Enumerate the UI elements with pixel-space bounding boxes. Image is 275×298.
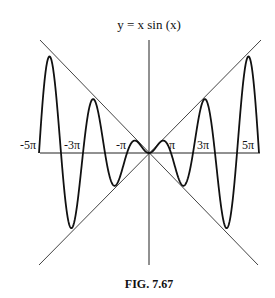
figure-caption: FIG. 7.67 (125, 277, 173, 291)
figure-canvas: y = x sin (x) -5π -3π -π π 3π 5π FIG. 7.… (0, 0, 275, 298)
tick-label-neg3pi: -3π (64, 138, 80, 152)
figure-title: y = x sin (x) (117, 17, 181, 32)
tick-label-pi: π (169, 138, 175, 152)
tick-label-3pi: 3π (197, 138, 209, 152)
tick-label-negpi: -π (116, 138, 126, 152)
tick-label-neg5pi: -5π (20, 138, 36, 152)
tick-label-5pi: 5π (242, 138, 254, 152)
